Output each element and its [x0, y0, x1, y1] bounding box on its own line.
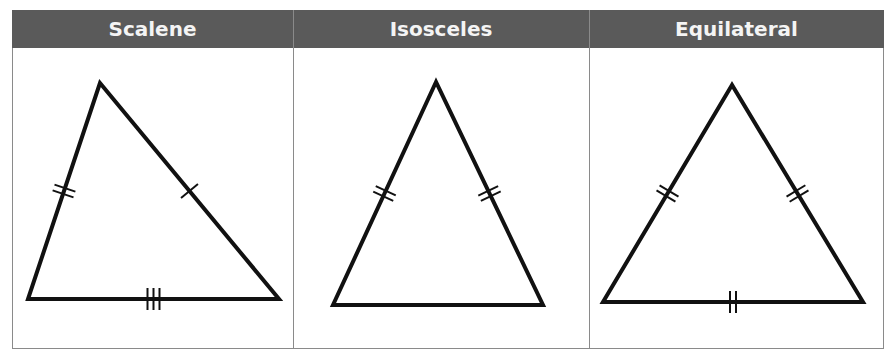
triangle-outline — [333, 82, 543, 305]
triangle-outline — [603, 85, 863, 302]
triangles-canvas — [0, 0, 886, 364]
scalene-triangle — [28, 83, 279, 310]
isosceles-triangle — [333, 82, 543, 305]
triangle-outline — [28, 83, 279, 299]
equilateral-triangle — [603, 85, 863, 313]
